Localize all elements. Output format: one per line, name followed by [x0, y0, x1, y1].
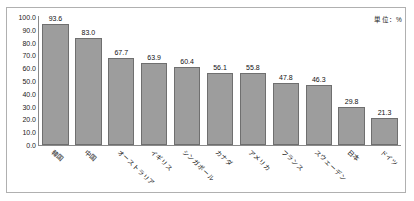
bar[interactable] [240, 73, 266, 145]
x-axis-category-label: アメリカ [247, 149, 272, 173]
bar[interactable] [207, 73, 233, 145]
x-axis-category-label: フランス [280, 149, 305, 173]
bar-slot: 93.6 [39, 16, 72, 145]
y-axis-tick: 10.0 [22, 129, 36, 136]
bar-slot: 56.1 [204, 16, 237, 145]
y-axis-tick: 60.0 [22, 65, 36, 72]
bar-value-label: 55.8 [236, 64, 269, 71]
bar[interactable] [273, 83, 299, 145]
bar-value-label: 56.1 [204, 64, 237, 71]
bar[interactable] [141, 63, 167, 145]
y-axis-tick: 50.0 [22, 78, 36, 85]
bar-value-label: 29.8 [335, 98, 368, 105]
bar[interactable] [174, 67, 200, 145]
bar[interactable] [338, 107, 364, 145]
bar-value-label: 47.8 [269, 74, 302, 81]
bar[interactable] [42, 24, 68, 145]
x-axis-category-label: ドイツ [378, 149, 398, 168]
x-axis-category-labels: 韓国中国オーストラリアイギリスシンガポールカナダアメリカフランススウェーデン日本… [39, 147, 401, 197]
bar-value-label: 21.3 [368, 109, 401, 116]
bar-slot: 60.4 [171, 16, 204, 145]
x-axis-category-label: 中国 [82, 149, 97, 163]
y-axis-tick-labels: 0.010.020.030.040.050.060.070.080.090.01… [10, 17, 36, 145]
bar-slot: 63.9 [138, 16, 171, 145]
bar-value-label: 46.3 [302, 76, 335, 83]
bar-chart: 単位：% 0.010.020.030.040.050.060.070.080.0… [0, 0, 414, 201]
x-axis-category-label: スウェーデン [313, 149, 348, 182]
bar[interactable] [75, 38, 101, 145]
bar-slot: 29.8 [335, 16, 368, 145]
bar-value-label: 67.7 [105, 49, 138, 56]
bar-value-label: 83.0 [72, 29, 105, 36]
y-axis-tick: 30.0 [22, 103, 36, 110]
x-axis-category-label: イギリス [148, 149, 173, 173]
bar-value-label: 60.4 [171, 58, 204, 65]
bar[interactable] [306, 85, 332, 145]
bar-slot: 55.8 [236, 16, 269, 145]
y-axis-tick: 80.0 [22, 39, 36, 46]
x-axis-line [38, 145, 401, 146]
bar-slot: 46.3 [302, 16, 335, 145]
x-axis-category-label: カナダ [214, 149, 234, 168]
y-axis-tick: 40.0 [22, 90, 36, 97]
bar[interactable] [371, 118, 397, 145]
bar-slot: 47.8 [269, 16, 302, 145]
x-axis-category-label: 韓国 [49, 149, 64, 163]
y-axis-tick: 20.0 [22, 116, 36, 123]
y-axis-tick: 0.0 [26, 142, 36, 149]
y-axis-tick: 70.0 [22, 52, 36, 59]
bar-slot: 83.0 [72, 16, 105, 145]
y-axis-tick: 100.0 [18, 14, 36, 21]
bar[interactable] [108, 58, 134, 145]
bar-value-label: 63.9 [138, 54, 171, 61]
x-axis-category-label: 日本 [346, 149, 361, 163]
x-axis-category-label: シンガポール [181, 149, 216, 182]
plot-area: 93.683.067.763.960.456.155.847.846.329.8… [39, 16, 401, 145]
bar-slot: 21.3 [368, 16, 401, 145]
bar-value-label: 93.6 [39, 15, 72, 22]
y-axis-tick: 90.0 [22, 26, 36, 33]
bar-slot: 67.7 [105, 16, 138, 145]
